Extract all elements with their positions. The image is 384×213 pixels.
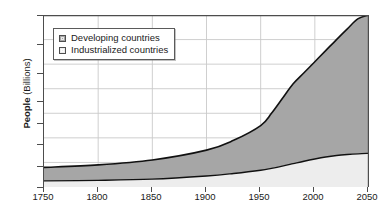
population-area-chart: People (Billions) 10 8 6 4 3 2 1 0 1750 …: [0, 0, 384, 213]
x-tick-mark: [151, 187, 152, 192]
x-tick-label: 1800: [67, 191, 127, 202]
legend-item-industrialized: Industrialized countries: [58, 44, 168, 56]
x-tick-mark: [259, 187, 260, 192]
dark-gray-swatch-icon: [59, 35, 66, 42]
x-tick-label: 1950: [229, 191, 289, 202]
x-tick-label: 1750: [13, 191, 73, 202]
light-gray-swatch-icon: [59, 47, 66, 54]
x-tick-label: 1900: [175, 191, 235, 202]
x-tick-mark: [97, 187, 98, 192]
x-tick-label: 1850: [121, 191, 181, 202]
x-tick-mark: [205, 187, 206, 192]
legend-label-industrialized: Industrialized countries: [71, 44, 168, 56]
legend-item-developing: Developing countries: [58, 32, 168, 44]
legend-label-developing: Developing countries: [71, 32, 160, 44]
x-tick-mark: [313, 187, 314, 192]
x-tick-mark: [43, 187, 44, 192]
x-tick-label: 2050: [337, 191, 384, 202]
x-tick-mark: [367, 187, 368, 192]
legend: Developing countries Industrialized coun…: [53, 28, 175, 60]
x-tick-label: 2000: [283, 191, 343, 202]
